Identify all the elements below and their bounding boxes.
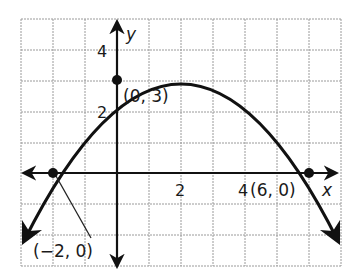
parabola-graph: y x 4 2 2 4 (0, 3) (−2, 0) (6, 0) <box>0 0 358 271</box>
leader-line <box>56 176 91 238</box>
x-axis-label: x <box>321 180 333 200</box>
point-y-intercept <box>112 75 122 85</box>
label-y-intercept: (0, 3) <box>123 86 169 106</box>
point-right-root <box>304 168 314 178</box>
y-axis-label: y <box>125 24 137 44</box>
tick-y2: 2 <box>97 103 107 122</box>
grid <box>21 19 341 266</box>
label-left-root: (−2, 0) <box>33 241 93 261</box>
tick-x4: 4 <box>238 181 248 200</box>
tick-x2: 2 <box>175 181 185 200</box>
tick-y4: 4 <box>97 42 107 61</box>
label-right-root: (6, 0) <box>250 180 296 200</box>
point-left-root <box>48 168 58 178</box>
